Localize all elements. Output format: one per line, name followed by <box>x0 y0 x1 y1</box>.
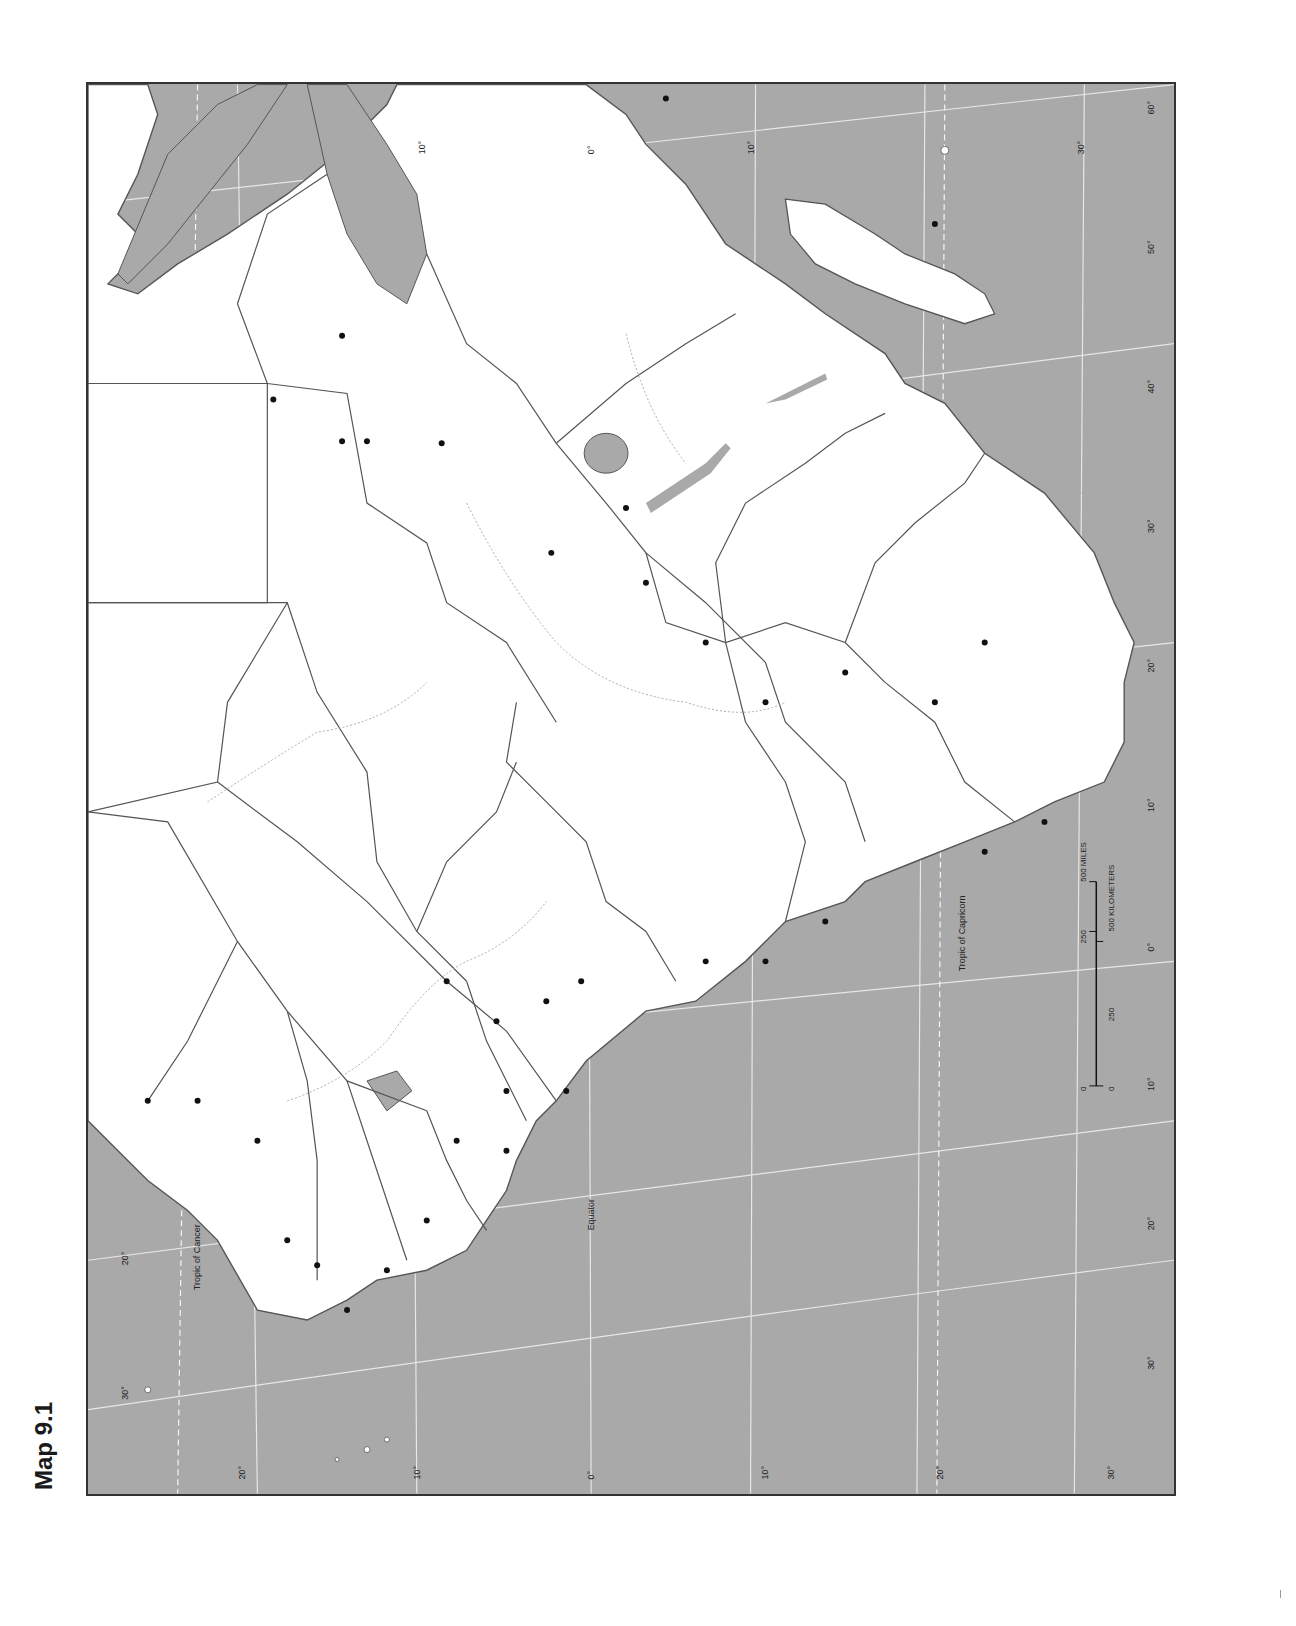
tick-top-1: 10° <box>417 140 427 154</box>
tick-right-9: 30° <box>1146 1356 1156 1370</box>
tick-bottom-1: 20° <box>237 1465 247 1479</box>
scale-km-500: 500 KILOMETERS <box>1107 865 1116 932</box>
map-frame: Tropic of Cancer Equator Tropic of Capri… <box>86 82 1176 1496</box>
tick-right-4: 20° <box>1146 658 1156 672</box>
map-title: Map 9.1 <box>30 1402 58 1490</box>
scale-miles-0: 0 <box>1079 1086 1088 1091</box>
equator-label: Equator <box>586 1199 596 1230</box>
tick-bottom-2: 10° <box>412 1465 422 1479</box>
tick-left-20: 20° <box>120 1251 130 1265</box>
tick-bottom-5: 20° <box>935 1465 945 1479</box>
scale-miles-250: 250 <box>1079 930 1088 944</box>
tick-bottom-6: 30° <box>1106 1465 1116 1479</box>
tick-right-2: 40° <box>1146 379 1156 393</box>
page-mark <box>1280 1590 1281 1598</box>
tick-right-0: 60° <box>1146 101 1156 115</box>
tick-right-5: 10° <box>1146 798 1156 812</box>
tropic-of-cancer-label: Tropic of Cancer <box>192 1224 202 1290</box>
tick-right-6: 0° <box>1146 942 1156 951</box>
scale-km-250: 250 <box>1107 1007 1116 1021</box>
scale-km-0: 0 <box>1107 1086 1116 1091</box>
tick-top-4: 30° <box>1076 140 1086 154</box>
scale-miles-500: 500 MILES <box>1079 842 1088 881</box>
tick-right-1: 50° <box>1146 240 1156 254</box>
tick-top-3: 10° <box>746 140 756 154</box>
tick-right-7: 10° <box>1146 1077 1156 1091</box>
africa-landmass <box>88 85 1134 1320</box>
tick-bottom-3: 0° <box>586 1470 596 1479</box>
lake-victoria <box>584 433 628 473</box>
scale-bar: 500 MILES 250 0 500 KILOMETERS 250 0 <box>1079 842 1116 1091</box>
africa-outline-map: Tropic of Cancer Equator Tropic of Capri… <box>88 84 1174 1494</box>
tick-bottom-4: 10° <box>760 1465 770 1479</box>
tropic-of-capricorn-label: Tropic of Capricorn <box>957 896 967 972</box>
madagascar-island <box>785 199 994 324</box>
tick-top-2: 0° <box>586 145 596 154</box>
tick-right-3: 30° <box>1146 519 1156 533</box>
tick-bottom-0: 30° <box>120 1386 130 1400</box>
tick-right-8: 20° <box>1146 1216 1156 1230</box>
